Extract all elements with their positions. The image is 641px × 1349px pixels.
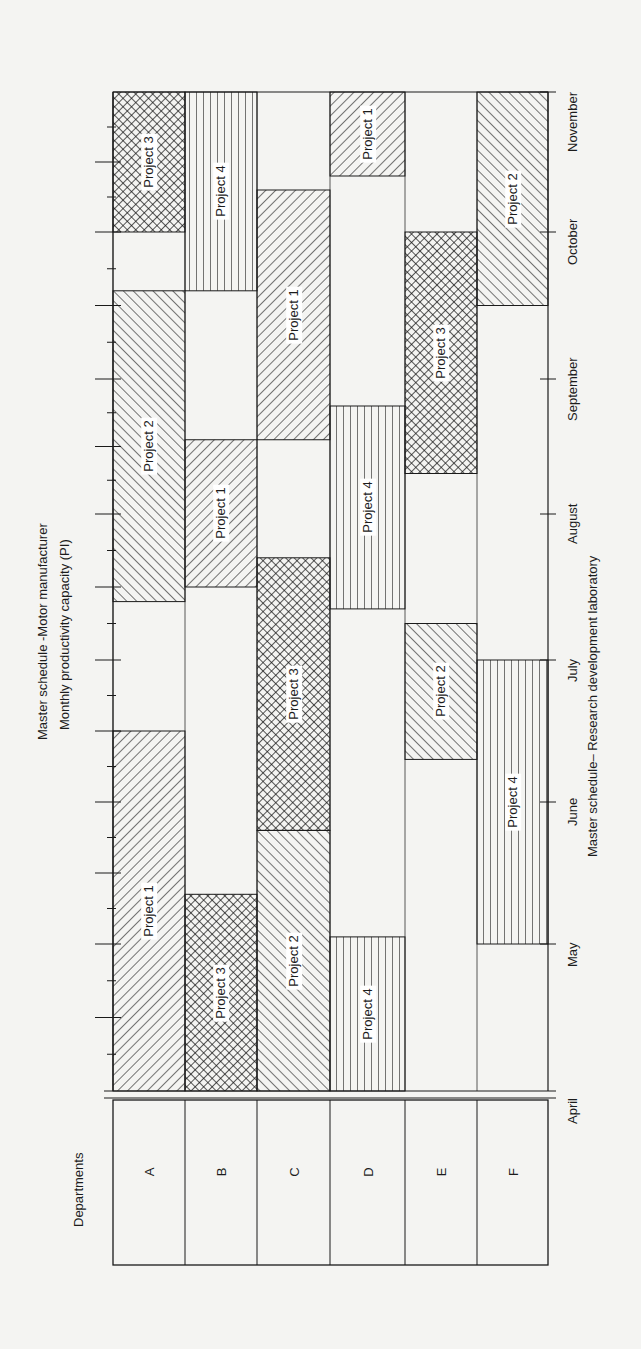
bar-label: Project 1 (286, 286, 302, 343)
bar-label: Project 2 (433, 663, 449, 720)
month-label-july: July (566, 658, 579, 681)
bar-label: Project 3 (141, 133, 157, 190)
bar-label: Project 1 (360, 105, 376, 162)
month-label-november: November (566, 92, 579, 152)
bar-label: Project 4 (213, 163, 229, 220)
department-e: E (434, 1168, 449, 1177)
bar-label: Project 2 (286, 932, 302, 989)
bar-label: Project 3 (433, 324, 449, 381)
bar-label: Project 3 (286, 665, 302, 722)
bar-label: Project 4 (360, 985, 376, 1042)
month-label-april: April (566, 1098, 579, 1124)
month-label-august: August (566, 504, 579, 544)
x-axis-label: Master schedule– Research development la… (586, 556, 599, 857)
month-label-may: May (566, 942, 579, 967)
department-f: F (505, 1168, 520, 1176)
chart-subtitle: Monthly productivity capacity (PI) (58, 539, 71, 730)
bar-label: Project 1 (141, 882, 157, 939)
department-a: A (142, 1168, 157, 1177)
department-c: C (286, 1167, 301, 1176)
bar-label: Project 3 (213, 964, 229, 1021)
department-d: D (360, 1167, 375, 1176)
month-label-october: October (566, 219, 579, 265)
month-label-june: June (566, 798, 579, 826)
chart-title: Master schedule -Motor manufacturer (36, 523, 49, 740)
bar-label: Project 2 (505, 170, 521, 227)
bar-label: Project 2 (141, 418, 157, 475)
gantt-chart: Project 1Project 2Project 3Project 3Proj… (0, 0, 641, 1349)
department-b: B (214, 1168, 229, 1177)
bar-label: Project 1 (213, 485, 229, 542)
row-header: Departments (72, 1153, 85, 1227)
month-label-september: September (566, 357, 579, 421)
bar-label: Project 4 (360, 479, 376, 536)
bar-label: Project 4 (505, 773, 521, 830)
chart-canvas (0, 0, 641, 1349)
